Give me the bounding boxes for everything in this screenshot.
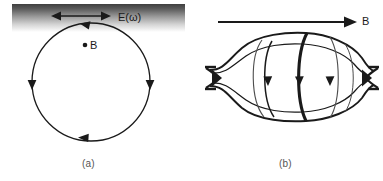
loop-arrowhead-left: [28, 80, 37, 90]
caption-panel-a: (a): [82, 158, 95, 169]
b-field-arrowhead: [344, 17, 357, 28]
loop-arrowhead-b-2: [295, 76, 304, 86]
magnetic-bottle-outline: [210, 33, 374, 122]
caption-panel-b: (b): [279, 158, 292, 169]
b-field-arrow: [218, 17, 357, 28]
b-field-label: B: [362, 15, 369, 27]
b-point-label: B: [90, 39, 97, 51]
b-point-marker: [83, 43, 88, 48]
current-loop-4: [345, 44, 353, 112]
loop-arrowhead-b-3: [326, 76, 335, 86]
e-field-label: E(ω): [118, 11, 141, 23]
figure-canvas: [0, 0, 383, 181]
physics-figure: E(ω) B B (a) (b): [0, 0, 383, 181]
boundary-gradient-band: [12, 4, 185, 32]
right-cusp: [362, 67, 379, 89]
loop-arrowhead-right: [146, 80, 155, 90]
